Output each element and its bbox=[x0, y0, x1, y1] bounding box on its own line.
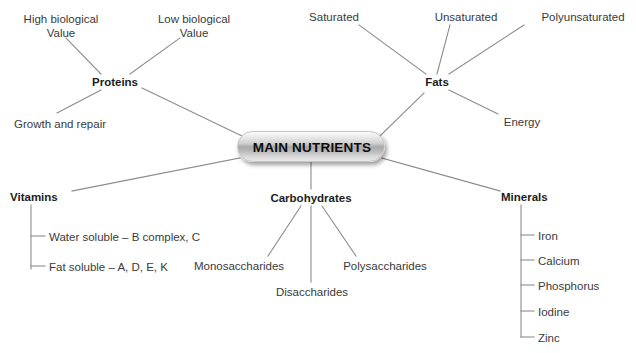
edge-fats-energy bbox=[449, 90, 498, 114]
leaf-label-zinc[interactable]: Zinc bbox=[538, 331, 560, 345]
leaf-label-fat-soluble[interactable]: Fat soluble – A, D, E, K bbox=[49, 260, 168, 274]
leaf-label-calcium[interactable]: Calcium bbox=[538, 254, 580, 268]
connector-lines bbox=[0, 0, 636, 353]
edge-carbohydrates-monosaccharides bbox=[268, 206, 301, 256]
edge-fats-saturated bbox=[359, 25, 426, 74]
branch-label-fats[interactable]: Fats bbox=[425, 75, 449, 89]
edge-center-minerals bbox=[382, 158, 500, 191]
edge-fats-polyunsaturated bbox=[449, 25, 524, 74]
branch-label-proteins[interactable]: Proteins bbox=[92, 75, 138, 89]
edge-carbohydrates-polysaccharides bbox=[322, 206, 356, 256]
center-node-label: MAIN NUTRIENTS bbox=[238, 132, 386, 163]
leaf-label-iron[interactable]: Iron bbox=[538, 229, 558, 243]
leaf-label-disaccharides[interactable]: Disaccharides bbox=[276, 285, 348, 299]
leaf-label-energy[interactable]: Energy bbox=[504, 115, 540, 129]
leaf-label-low-biological-value[interactable]: Low biological Value bbox=[158, 12, 230, 40]
leaf-label-phosphorus[interactable]: Phosphorus bbox=[538, 279, 599, 293]
edge-proteins-high-biological-value bbox=[66, 38, 101, 74]
leaf-line-1: High biological bbox=[24, 12, 99, 26]
leaf-label-iodine[interactable]: Iodine bbox=[538, 305, 569, 319]
leaf-label-polysaccharides[interactable]: Polysaccharides bbox=[343, 259, 427, 273]
branch-label-vitamins[interactable]: Vitamins bbox=[10, 190, 58, 204]
leaf-label-saturated[interactable]: Saturated bbox=[309, 10, 359, 24]
branch-label-carbohydrates[interactable]: Carbohydrates bbox=[270, 191, 351, 205]
edge-proteins-low-biological-value bbox=[130, 38, 180, 74]
leaf-line-1: Low biological bbox=[158, 12, 230, 26]
edge-center-fats bbox=[380, 93, 424, 136]
edge-center-proteins bbox=[142, 88, 242, 136]
edge-fats-unsaturated bbox=[437, 25, 450, 74]
branch-label-minerals[interactable]: Minerals bbox=[501, 190, 548, 204]
leaf-label-polyunsaturated[interactable]: Polyunsaturated bbox=[541, 10, 624, 24]
mind-map-canvas: MAIN NUTRIENTS Proteins High biological … bbox=[0, 0, 636, 353]
edge-proteins-growth-and-repair bbox=[57, 90, 101, 113]
leaf-line-2: Value bbox=[158, 26, 230, 40]
leaf-label-monosaccharides[interactable]: Monosaccharides bbox=[194, 259, 284, 273]
leaf-label-growth-and-repair[interactable]: Growth and repair bbox=[14, 117, 106, 131]
leaf-label-unsaturated[interactable]: Unsaturated bbox=[435, 10, 498, 24]
leaf-label-water-soluble[interactable]: Water soluble – B complex, C bbox=[49, 230, 200, 244]
leaf-label-high-biological-value[interactable]: High biological Value bbox=[24, 12, 99, 40]
leaf-line-2: Value bbox=[24, 26, 99, 40]
edge-center-vitamins bbox=[72, 158, 240, 191]
center-node-main-nutrients[interactable]: MAIN NUTRIENTS bbox=[237, 131, 385, 162]
